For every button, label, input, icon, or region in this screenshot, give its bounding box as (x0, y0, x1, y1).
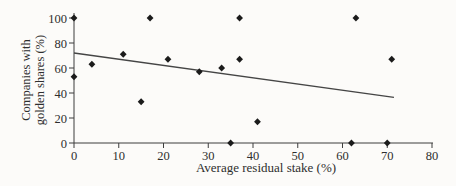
y-axis-title-line2: golden shares (%) (33, 35, 47, 125)
data-point (120, 51, 127, 58)
data-point (138, 98, 145, 105)
y-axis-title: Companies with golden shares (%) (19, 35, 47, 125)
data-point (89, 61, 96, 68)
y-tick-label: 0 (61, 137, 67, 151)
y-tick-label: 60 (55, 62, 68, 76)
y-tick-label: 100 (48, 12, 67, 26)
data-point (236, 15, 243, 22)
data-point (227, 140, 234, 147)
x-tick-label: 10 (113, 149, 126, 163)
data-point (165, 56, 172, 63)
x-tick-label: 70 (381, 149, 394, 163)
data-point (71, 15, 78, 22)
scatter-chart: 02040608010001020304050607080 (0, 0, 456, 186)
data-point (236, 56, 243, 63)
x-tick-label: 20 (157, 149, 170, 163)
data-point (384, 140, 391, 147)
data-point (254, 118, 261, 125)
data-point (348, 140, 355, 147)
y-tick-label: 80 (55, 37, 68, 51)
golden-shares-scatter-figure: 02040608010001020304050607080 Companies … (0, 0, 456, 186)
trend-line (74, 53, 394, 97)
x-tick-label: 0 (71, 149, 77, 163)
data-point (196, 68, 203, 75)
data-point (71, 73, 78, 80)
x-tick-label: 60 (336, 149, 349, 163)
y-axis-title-line1: Companies with (19, 35, 33, 125)
x-axis-title: Average residual stake (%) (196, 160, 336, 176)
data-point (353, 15, 360, 22)
y-tick-label: 20 (55, 112, 68, 126)
data-point (218, 65, 225, 72)
x-tick-label: 80 (426, 149, 439, 163)
data-point (147, 15, 154, 22)
y-tick-label: 40 (55, 87, 68, 101)
data-point (388, 56, 395, 63)
